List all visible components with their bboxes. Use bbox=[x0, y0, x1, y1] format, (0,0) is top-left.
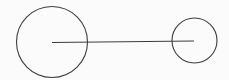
connector-line bbox=[52, 41, 194, 43]
diagram-svg bbox=[0, 0, 229, 80]
small-circle bbox=[172, 18, 217, 63]
diagram-canvas bbox=[0, 0, 229, 80]
